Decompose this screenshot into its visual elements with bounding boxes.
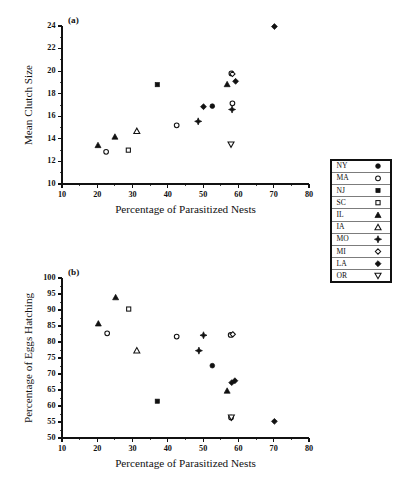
- x-tick-label: 20: [93, 444, 101, 453]
- y-tick-label: 14: [47, 134, 55, 143]
- series-OR: [228, 142, 234, 147]
- x-tick-label: 50: [199, 444, 207, 453]
- y-tick-label: 95: [47, 289, 55, 298]
- point-MA: [230, 101, 235, 106]
- x-tick-label: 70: [270, 190, 278, 199]
- series-IA: [134, 347, 140, 352]
- point-SC: [126, 148, 130, 152]
- x-tick-label: 40: [164, 444, 172, 453]
- legend-marker-MA: [376, 176, 381, 181]
- point-MA: [104, 149, 109, 154]
- panel-label: (b): [68, 267, 79, 277]
- point-IL: [95, 142, 101, 147]
- series-SC: [126, 148, 130, 152]
- point-MA: [105, 331, 110, 336]
- series-IL: [95, 294, 230, 393]
- point-IL: [113, 294, 119, 299]
- point-NJ: [155, 83, 159, 87]
- y-axis-title: Mean Clutch Size: [22, 65, 34, 145]
- x-tick-label: 10: [58, 444, 66, 453]
- series-IA: [134, 128, 140, 133]
- series-SC: [127, 307, 131, 311]
- point-LA: [271, 24, 277, 30]
- series-LA: [201, 24, 278, 110]
- legend-label: IL: [337, 210, 345, 219]
- point-LA: [201, 104, 207, 110]
- x-tick-label: 60: [234, 444, 242, 453]
- series-MA: [105, 331, 234, 420]
- legend-label: MA: [337, 173, 350, 182]
- x-tick-label: 40: [164, 190, 172, 199]
- series-NJ: [155, 83, 159, 87]
- axes: 102030405060708050556065707580859095100: [43, 273, 313, 454]
- y-tick-label: 10: [47, 179, 55, 188]
- y-tick-label: 85: [47, 321, 55, 330]
- y-tick-label: 12: [47, 156, 55, 165]
- y-tick-label: 90: [47, 305, 55, 314]
- x-axis-title: Percentage of Parasitized Nests: [115, 457, 256, 469]
- y-tick-label: 80: [47, 337, 55, 346]
- legend-marker-SC: [376, 201, 380, 205]
- legend-label: NY: [337, 161, 348, 170]
- legend-marker-NJ: [376, 188, 380, 192]
- y-tick-label: 20: [47, 66, 55, 75]
- x-axis-title: Percentage of Parasitized Nests: [115, 203, 256, 215]
- point-IL: [224, 388, 230, 393]
- legend-label: IA: [337, 222, 346, 231]
- legend-label: OR: [337, 271, 348, 280]
- y-axis-title: Percentage of Eggs Hatching: [22, 293, 34, 424]
- x-tick-label: 10: [58, 190, 66, 199]
- point-NY: [210, 363, 215, 368]
- panel-a: 10203040506070801012141618202224(a)Perce…: [22, 15, 313, 215]
- y-tick-label: 75: [47, 353, 55, 362]
- series-NY: [210, 104, 215, 109]
- series-MO: [195, 106, 236, 125]
- y-tick-label: 60: [47, 401, 55, 410]
- point-MO: [195, 347, 202, 354]
- point-SC: [127, 307, 131, 311]
- point-MA: [174, 334, 179, 339]
- legend-marker-NY: [376, 164, 381, 169]
- scatter-figure: 10203040506070801012141618202224(a)Perce…: [0, 0, 397, 489]
- x-tick-label: 30: [128, 190, 136, 199]
- y-tick-label: 65: [47, 385, 55, 394]
- y-tick-label: 16: [47, 111, 55, 120]
- series-IL: [95, 81, 230, 147]
- figure-container: 10203040506070801012141618202224(a)Perce…: [0, 0, 397, 489]
- y-tick-label: 70: [47, 369, 55, 378]
- state-legend: NYMANJSCILIAMOMILAOR: [331, 160, 391, 282]
- legend-label: SC: [337, 198, 346, 207]
- point-IA: [134, 128, 140, 133]
- legend-label: NJ: [337, 186, 345, 195]
- series-NJ: [155, 399, 159, 403]
- x-tick-label: 80: [305, 444, 313, 453]
- data-points: [95, 24, 277, 155]
- x-tick-label: 80: [305, 190, 313, 199]
- series-NY: [210, 363, 215, 368]
- x-tick-label: 20: [93, 190, 101, 199]
- y-tick-label: 18: [47, 89, 55, 98]
- axes: 10203040506070801012141618202224: [47, 21, 313, 200]
- y-tick-label: 100: [43, 273, 55, 282]
- point-MO: [229, 106, 236, 113]
- point-IL: [112, 134, 118, 139]
- x-tick-label: 70: [270, 444, 278, 453]
- point-OR: [228, 142, 234, 147]
- point-MO: [200, 332, 207, 339]
- y-tick-label: 50: [47, 433, 55, 442]
- legend-label: MI: [337, 247, 347, 256]
- point-LA: [233, 78, 239, 84]
- legend-label: MO: [337, 234, 350, 243]
- y-tick-label: 22: [47, 43, 55, 52]
- panel-b: 102030405060708050556065707580859095100(…: [22, 267, 313, 469]
- series-MO: [195, 332, 207, 354]
- point-LA: [271, 418, 277, 424]
- x-tick-label: 60: [234, 190, 242, 199]
- y-tick-label: 55: [47, 417, 55, 426]
- x-tick-label: 50: [199, 190, 207, 199]
- point-IL: [95, 321, 101, 326]
- point-MA: [174, 123, 179, 128]
- series-MA: [104, 71, 235, 154]
- panel-label: (a): [68, 15, 79, 25]
- x-tick-label: 30: [128, 444, 136, 453]
